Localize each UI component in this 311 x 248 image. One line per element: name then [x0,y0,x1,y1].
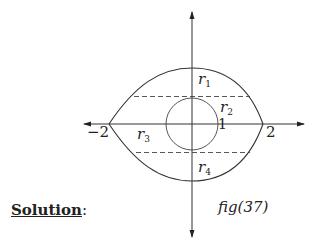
solution-colon: : [82,201,87,219]
tick-label-neg2: −2 [87,125,109,140]
region-label-r3: r3 [137,127,150,144]
upper-boundary-curve [109,68,263,124]
figure-caption: fig(37) [218,200,268,215]
region-label-r2: r2 [220,100,233,117]
region-label-r4: r4 [198,160,211,177]
solution-label: Solution [11,201,82,219]
tick-label-1: 1 [218,117,227,131]
solution-heading: Solution: [11,201,87,219]
region-label-r1: r1 [198,72,211,89]
tick-label-2: 2 [266,125,276,140]
